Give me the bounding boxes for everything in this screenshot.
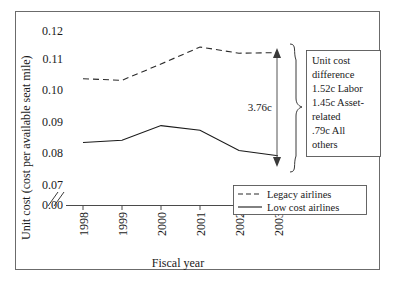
x-tick-label-2: 2000: [155, 212, 169, 236]
x-tick-label-3: 2001: [194, 212, 208, 236]
x-tick-label-5: 2003: [272, 212, 286, 236]
y-axis-title: Unit cost (cost per available seat mile): [19, 55, 33, 240]
callout-line-1: difference: [312, 69, 355, 80]
chart-legend: Legacy airlines Low cost airlines: [234, 186, 367, 215]
y-tick-label-4: 0.08: [42, 146, 63, 160]
y-tick-label-1: 0.11: [42, 52, 63, 66]
legend-label-1: Low cost airlines: [267, 202, 339, 213]
chart-figure: 0.12 0.11 0.10 0.09 0.08 0.07 0.00 Unit …: [0, 0, 396, 286]
x-tick-label-0: 1998: [77, 212, 91, 236]
y-tick-label-5: 0.07: [42, 178, 63, 192]
x-axis-title: Fiscal year: [152, 256, 204, 270]
callout-line-2: 1.52c Labor: [312, 83, 363, 94]
callout-line-0: Unit cost: [312, 55, 350, 66]
legend-label-0: Legacy airlines: [267, 189, 331, 200]
x-tick-label-1: 1999: [116, 212, 130, 236]
callout-line-3: 1.45c Asset-: [312, 97, 364, 108]
callout-line-4: related: [312, 111, 341, 122]
y-tick-label-2: 0.10: [42, 83, 63, 97]
chart-svg: 0.12 0.11 0.10 0.09 0.08 0.07 0.00 Unit …: [0, 0, 396, 286]
callout-line-5: .79c All: [312, 125, 345, 136]
y-tick-label-0: 0.12: [42, 24, 63, 38]
x-tick-label-4: 2002: [233, 212, 247, 236]
callout-line-6: others: [312, 139, 338, 150]
difference-arrow-label: 3.76c: [248, 101, 272, 113]
y-tick-label-3: 0.09: [42, 115, 63, 129]
